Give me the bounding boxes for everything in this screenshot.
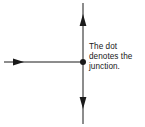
caption-line-1: The dot — [89, 42, 145, 52]
junction-caption: The dot denotes the junction. — [89, 42, 145, 72]
down-arrowhead-icon — [80, 97, 87, 109]
caption-line-2: denotes the — [89, 52, 145, 62]
junction-dot — [80, 59, 86, 65]
right-arrowhead-icon — [13, 59, 24, 66]
up-arrowhead-icon — [80, 14, 87, 26]
caption-line-3: junction. — [89, 62, 145, 72]
junction-diagram: The dot denotes the junction. — [0, 0, 145, 127]
